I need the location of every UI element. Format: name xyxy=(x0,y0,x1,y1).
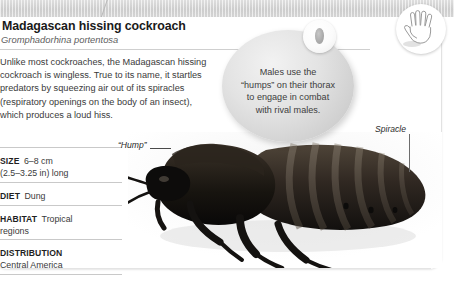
spiracle-opening-shape xyxy=(315,28,324,44)
fact-extra: (2.5–3.25 in) long xyxy=(0,168,122,180)
fact-extra: regions xyxy=(0,226,122,238)
banner-slash-decoration xyxy=(100,0,108,19)
cockroach-illustration xyxy=(128,132,442,268)
description-paragraph: Unlike most cockroaches, the Madagascan … xyxy=(0,56,210,122)
spiracle-label: Spiracle xyxy=(375,124,406,134)
callout-line-1: Males use the xyxy=(222,66,354,79)
callout-line-2: “humps” on their thorax xyxy=(222,79,354,92)
fact-value: Dung xyxy=(24,191,45,201)
fact-value: Tropical xyxy=(42,214,73,224)
hump-leader-line xyxy=(150,148,171,149)
fact-key: DIET xyxy=(0,191,20,201)
fact-value: 6–8 cm xyxy=(24,156,53,166)
species-photo xyxy=(128,132,442,268)
top-banner xyxy=(0,0,454,17)
callout-line-4: with rival males. xyxy=(222,104,354,117)
fact-row-diet: DIET Dung xyxy=(0,182,122,205)
fact-key: HABITAT xyxy=(0,214,37,224)
fact-key: SIZE xyxy=(0,156,20,166)
spiracle-closeup-icon xyxy=(303,20,336,53)
species-card-page: Madagascan hissing cockroach Gromphadorh… xyxy=(0,0,454,286)
hand-scale-badge xyxy=(396,4,446,54)
fact-list: SIZE 6–8 cm (2.5–3.25 in) long DIET Dung… xyxy=(0,147,122,275)
fact-row-distribution: DISTRIBUTION Central America xyxy=(0,239,122,275)
fact-extra: Central America xyxy=(0,260,122,272)
callout-text: Males use the “humps” on their thorax to… xyxy=(222,66,354,116)
page-title: Madagascan hissing cockroach xyxy=(2,19,186,33)
callout-line-3: to engage in combat xyxy=(222,91,354,104)
scientific-name: Gromphadorhina portentosa xyxy=(1,34,118,45)
fact-key: DISTRIBUTION xyxy=(0,248,62,258)
fact-row-habitat: HABITAT Tropical regions xyxy=(0,205,122,240)
fact-row-size: SIZE 6–8 cm (2.5–3.25 in) long xyxy=(0,147,122,182)
spiracle-leader-line xyxy=(409,134,410,172)
hump-label: “Hump” xyxy=(118,140,147,150)
open-hand-icon xyxy=(396,4,446,54)
